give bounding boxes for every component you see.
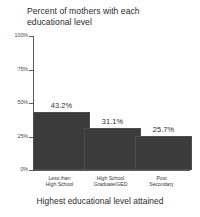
- bar-value-label: 43.2%: [33, 101, 90, 110]
- y-tick-label: 75%: [2, 66, 28, 72]
- bar-chart-figure: Percent of mothers with each educational…: [0, 0, 200, 217]
- y-tick-label: 100%: [2, 32, 28, 38]
- bar: [33, 112, 90, 170]
- bar: [84, 128, 141, 170]
- x-category-label: Post Secondary: [133, 175, 190, 188]
- x-category-label: Less than High School: [31, 175, 88, 188]
- bar-value-label: 31.1%: [84, 117, 141, 126]
- bar-value-label: 25.7%: [135, 125, 192, 134]
- chart-title: Percent of mothers with each educational…: [27, 6, 192, 27]
- y-tick: 100%: [0, 32, 28, 40]
- y-tick: 0%: [0, 166, 28, 174]
- y-tick-label: 25%: [2, 133, 28, 139]
- x-category-label: High School Graduate/GED: [82, 175, 139, 188]
- bar: [135, 136, 192, 170]
- y-tick-label: 50%: [2, 99, 28, 105]
- y-tick: 25%: [0, 133, 28, 141]
- y-tick-label: 0%: [2, 166, 28, 172]
- y-tick: 50%: [0, 99, 28, 107]
- x-axis-title: Highest educational level attained: [0, 196, 200, 206]
- y-tick: 75%: [0, 66, 28, 74]
